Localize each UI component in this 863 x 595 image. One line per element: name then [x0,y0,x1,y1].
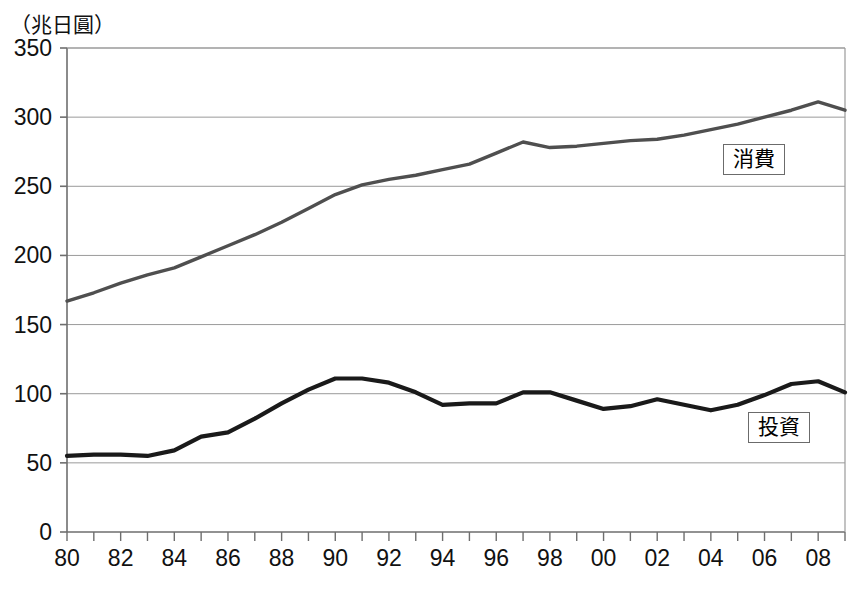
axis-lines [60,48,845,532]
chart-container: （兆日圓） 350 300 250 200 150 100 50 0 80828… [0,0,863,595]
gridlines [67,48,845,463]
x-tick-label-02: 02 [644,545,670,572]
series-line-investment [67,379,845,456]
x-tick-label-94: 94 [430,545,456,572]
x-tick-label-06: 06 [752,545,778,572]
y-tick-150: 150 [0,312,60,339]
x-tick-label-98: 98 [537,545,563,572]
x-axis-ticks [67,532,845,541]
y-tick-250: 250 [0,173,60,200]
y-tick-350: 350 [0,35,60,62]
x-tick-label-82: 82 [108,545,134,572]
x-tick-label-86: 86 [215,545,241,572]
y-axis-tick-labels: 350 300 250 200 150 100 50 0 [0,0,60,595]
plot-area [0,0,863,595]
y-tick-300: 300 [0,104,60,131]
y-tick-0: 0 [0,519,60,546]
y-tick-100: 100 [0,381,60,408]
x-tick-label-04: 04 [698,545,724,572]
legend-label-consumption: 消費 [723,144,785,175]
series-line-consumption [67,102,845,301]
y-tick-200: 200 [0,242,60,269]
x-tick-label-00: 00 [591,545,617,572]
x-tick-label-08: 08 [805,545,831,572]
x-tick-label-96: 96 [483,545,509,572]
x-tick-label-90: 90 [322,545,348,572]
x-tick-label-92: 92 [376,545,402,572]
x-tick-label-84: 84 [162,545,188,572]
x-tick-label-88: 88 [269,545,295,572]
y-tick-50: 50 [0,450,60,477]
x-tick-label-80: 80 [54,545,80,572]
legend-label-investment: 投資 [748,412,810,443]
